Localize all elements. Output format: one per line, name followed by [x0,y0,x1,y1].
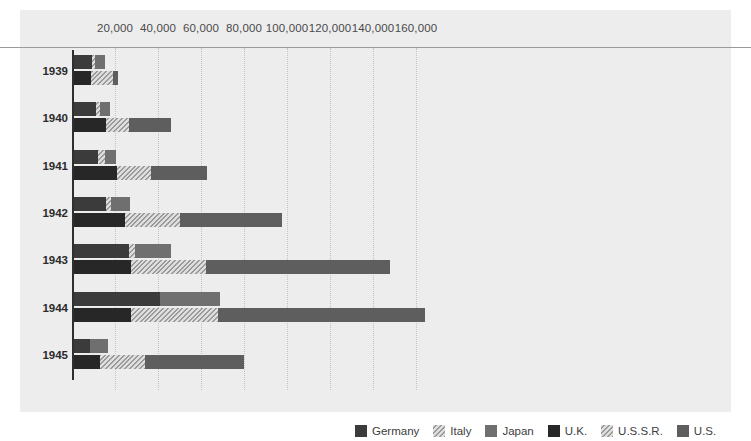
legend-item[interactable]: Germany [355,425,419,437]
x-axis-tick-label: 140,000 [352,22,394,34]
legend-item[interactable]: Japan [485,425,533,437]
legend-swatch-uk [548,425,560,437]
stacked-bar-allies[interactable] [74,71,118,85]
category-label: 1944 [30,302,68,314]
bar-segment-uk[interactable] [74,213,125,227]
legend-swatch-japan [485,425,497,437]
bar-segment-japan[interactable] [160,292,221,306]
bar-segment-japan[interactable] [100,102,110,116]
bar-segment-japan[interactable] [111,197,130,211]
stacked-bar-axis[interactable] [74,55,105,69]
x-axis-tick-label: 20,000 [97,22,133,34]
legend-item[interactable]: Italy [433,425,471,437]
chart-panel: 20,00040,00060,00080,000100,000120,00014… [20,10,731,412]
bar-segment-us[interactable] [129,118,171,132]
category-label: 1942 [30,207,68,219]
bar-segment-japan[interactable] [95,55,105,69]
bar-group: 1942 [20,195,731,242]
stacked-bar-allies[interactable] [74,308,425,322]
stacked-bar-axis[interactable] [74,339,108,353]
legend-swatch-ussr [601,425,613,437]
x-axis-tick-label: 120,000 [309,22,351,34]
category-label: 1943 [30,254,68,266]
bar-segment-us[interactable] [206,260,391,274]
legend-item[interactable]: U.S.S.R. [601,425,663,437]
x-axis-tick-label: 80,000 [226,22,262,34]
bar-segment-ussr[interactable] [106,118,129,132]
legend-label: U.S.S.R. [618,425,663,437]
x-axis-tick-label: 160,000 [395,22,437,34]
bar-segment-us[interactable] [180,213,283,227]
bar-segment-us[interactable] [151,166,208,180]
stacked-bar-allies[interactable] [74,118,171,132]
bar-segment-us[interactable] [145,355,245,369]
bar-group: 1939 [20,53,731,100]
x-axis-tick-labels: 20,00040,00060,00080,000100,000120,00014… [20,10,731,46]
bar-segment-ussr[interactable] [125,213,180,227]
bar-segment-germany[interactable] [74,197,106,211]
bar-segment-ussr[interactable] [100,355,145,369]
bar-segment-us[interactable] [113,71,118,85]
bar-segment-japan[interactable] [105,150,116,164]
category-label: 1939 [30,65,68,77]
stacked-bar-axis[interactable] [74,197,130,211]
legend-label: U.K. [565,425,587,437]
bar-segment-uk[interactable] [74,308,131,322]
legend: GermanyItalyJapanU.K.U.S.S.R.U.S. [355,420,716,441]
stacked-bar-axis[interactable] [74,102,110,116]
legend-label: U.S. [694,425,716,437]
category-label: 1941 [30,160,68,172]
bar-segment-germany[interactable] [74,244,129,258]
bar-segment-japan[interactable] [90,339,108,353]
bar-segment-ussr[interactable] [117,166,151,180]
bar-segment-germany[interactable] [74,150,98,164]
bar-segment-ussr[interactable] [91,71,113,85]
stacked-bar-axis[interactable] [74,244,171,258]
legend-label: Germany [372,425,419,437]
bar-segment-uk[interactable] [74,71,91,85]
stacked-bar-allies[interactable] [74,355,244,369]
legend-item[interactable]: U.K. [548,425,587,437]
category-label: 1940 [30,112,68,124]
stacked-bar-allies[interactable] [74,260,390,274]
bar-segment-japan[interactable] [135,244,171,258]
plot-area: 1939194019411942194319441945 GermanyItal… [20,48,731,412]
bar-segment-ussr[interactable] [131,308,218,322]
bar-group: 1945 [20,337,731,384]
stacked-bar-axis[interactable] [74,150,116,164]
legend-swatch-italy [433,425,445,437]
bar-segment-uk[interactable] [74,260,131,274]
stacked-bar-allies[interactable] [74,166,207,180]
bar-segment-uk[interactable] [74,118,106,132]
legend-item[interactable]: U.S. [677,425,716,437]
bar-group: 1943 [20,242,731,289]
bar-segment-uk[interactable] [74,166,117,180]
legend-swatch-germany [355,425,367,437]
bar-segment-ussr[interactable] [131,260,206,274]
bar-group: 1941 [20,148,731,195]
bar-group: 1944 [20,290,731,337]
bar-group: 1940 [20,100,731,147]
legend-label: Italy [450,425,471,437]
stacked-bar-allies[interactable] [74,213,282,227]
bar-segment-italy[interactable] [98,150,106,164]
legend-swatch-us [677,425,689,437]
legend-label: Japan [502,425,533,437]
x-axis-tick-label: 100,000 [266,22,308,34]
bar-segment-germany[interactable] [74,292,160,306]
x-axis-tick-label: 60,000 [183,22,219,34]
bar-segment-uk[interactable] [74,355,100,369]
bar-segment-germany[interactable] [74,339,90,353]
category-label: 1945 [30,349,68,361]
stacked-bar-axis[interactable] [74,292,220,306]
bar-segment-us[interactable] [218,308,425,322]
bar-segment-germany[interactable] [74,55,92,69]
x-axis-tick-label: 40,000 [140,22,176,34]
bar-segment-germany[interactable] [74,102,96,116]
